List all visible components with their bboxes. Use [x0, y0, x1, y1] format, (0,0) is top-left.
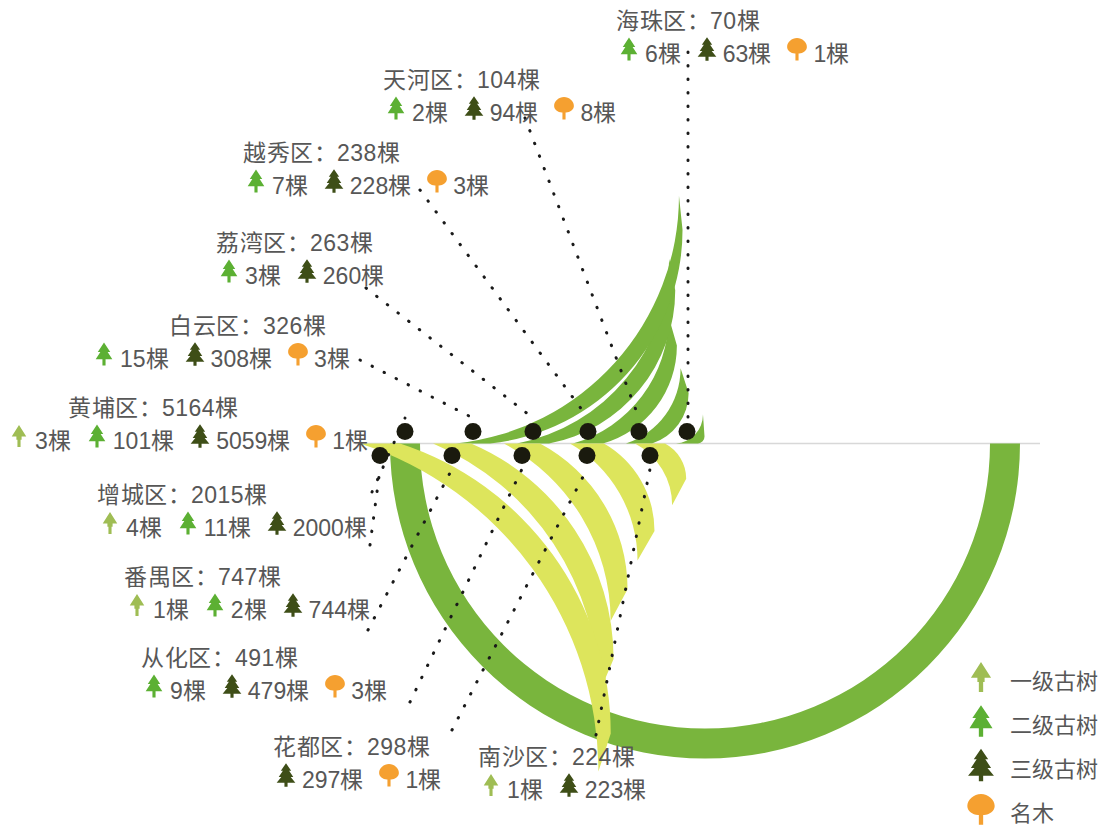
tree-level2-icon: [383, 95, 409, 130]
tree-level3-icon: [556, 772, 582, 807]
district-breakdown: 3棵260棵: [216, 258, 384, 293]
breakdown-segment: 1棵: [303, 423, 368, 458]
arc-dot-haizhu[interactable]: [679, 423, 696, 440]
tree-level2-icon: [963, 703, 999, 743]
breakdown-count: 1棵: [405, 763, 441, 797]
arc-dot-yuexiu[interactable]: [580, 423, 597, 440]
legend-label: 二级古树: [1010, 707, 1098, 739]
breakdown-count: 3棵: [35, 424, 71, 458]
label-yuexiu[interactable]: 越秀区：238棵 7棵228棵3棵: [243, 138, 489, 203]
breakdown-count: 1棵: [332, 424, 368, 458]
legend-label: 名木: [1010, 795, 1054, 827]
legend-item-4[interactable]: 名木: [963, 789, 1105, 833]
tree-level3-icon: [294, 258, 320, 293]
breakdown-count: 63棵: [723, 37, 772, 71]
famous-tree-icon: [376, 762, 402, 797]
tree-level3-icon: [187, 423, 213, 458]
breakdown-count: 15棵: [120, 342, 169, 376]
tree-level3-icon: [273, 762, 299, 797]
tree-level2-icon: [216, 258, 242, 293]
tree-level1-icon: [124, 592, 150, 627]
arc-dot-baiyun[interactable]: [465, 423, 482, 440]
district-title: 花都区：298棵: [273, 732, 441, 762]
district-title: 增城区：2015棵: [97, 480, 367, 510]
arc-dot-conghua[interactable]: [514, 447, 531, 464]
breakdown-segment: 228棵: [321, 168, 411, 203]
legend-label: 一级古树: [1010, 663, 1098, 695]
label-nansha[interactable]: 南沙区：224棵 1棵223棵: [478, 742, 646, 807]
breakdown-segment: 94棵: [461, 95, 539, 130]
breakdown-count: 3棵: [314, 342, 350, 376]
tree-level1-icon: [478, 772, 504, 807]
breakdown-segment: 5059棵: [187, 423, 290, 458]
tree-level3-icon: [321, 168, 347, 203]
breakdown-segment: 479棵: [219, 673, 309, 708]
arc-dot-huadu[interactable]: [579, 447, 596, 464]
district-title: 越秀区：238棵: [243, 138, 489, 168]
legend-item-2[interactable]: 二级古树: [963, 701, 1105, 745]
breakdown-segment: 9棵: [141, 673, 206, 708]
arc-liwan[interactable]: [517, 259, 675, 444]
famous-tree-icon: [285, 341, 311, 376]
tree-level2-icon: [202, 592, 228, 627]
arc-dot-panyu[interactable]: [444, 447, 461, 464]
tree-level2-icon: [616, 36, 642, 71]
breakdown-count: 1棵: [153, 593, 189, 627]
district-breakdown: 7棵228棵3棵: [243, 168, 489, 203]
label-conghua[interactable]: 从化区：491棵 9棵479棵3棵: [141, 643, 387, 708]
district-breakdown: 1棵223棵: [478, 772, 646, 807]
breakdown-count: 6棵: [645, 37, 681, 71]
district-breakdown: 297棵1棵: [273, 762, 441, 797]
label-baiyun[interactable]: 白云区：326棵 15棵308棵3棵: [91, 311, 350, 376]
legend-item-3[interactable]: 三级古树: [963, 745, 1105, 789]
breakdown-count: 308棵: [211, 342, 272, 376]
famous-tree-icon: [963, 791, 999, 831]
district-breakdown: 15棵308棵3棵: [91, 341, 350, 376]
tree-level1-icon: [6, 423, 32, 458]
legend-label: 三级古树: [1010, 751, 1098, 783]
label-panyu[interactable]: 番禺区：747棵 1棵2棵744棵: [124, 562, 370, 627]
famous-tree-icon: [784, 36, 810, 71]
breakdown-segment: 2000棵: [264, 510, 367, 545]
tree-level3-icon: [963, 747, 999, 787]
district-breakdown: 6棵63棵1棵: [616, 36, 849, 71]
arc-dot-huangpu[interactable]: [397, 423, 414, 440]
arc-dot-nansha[interactable]: [642, 447, 659, 464]
breakdown-count: 744棵: [309, 593, 370, 627]
breakdown-segment: 223棵: [556, 772, 646, 807]
arc-dot-zengcheng[interactable]: [372, 447, 389, 464]
label-huadu[interactable]: 花都区：298棵 297棵1棵: [273, 732, 441, 797]
breakdown-count: 1棵: [813, 37, 849, 71]
breakdown-count: 7棵: [272, 169, 308, 203]
infographic-canvas: 海珠区：70棵 6棵63棵1棵 天河区：104棵 2棵94棵8棵 越秀区：238…: [0, 0, 1109, 837]
breakdown-count: 1棵: [507, 773, 543, 807]
breakdown-count: 5059棵: [216, 424, 290, 458]
district-title: 从化区：491棵: [141, 643, 387, 673]
breakdown-count: 260棵: [323, 259, 384, 293]
label-huangpu[interactable]: 黄埔区：5164棵 3棵101棵5059棵1棵: [6, 393, 368, 458]
district-title: 南沙区：224棵: [478, 742, 646, 772]
breakdown-segment: 3棵: [424, 168, 489, 203]
breakdown-segment: 3棵: [6, 423, 71, 458]
breakdown-segment: 1棵: [784, 36, 849, 71]
arc-dot-tianhe[interactable]: [631, 423, 648, 440]
tree-level3-icon: [461, 95, 487, 130]
breakdown-count: 2棵: [412, 96, 448, 130]
legend-item-1[interactable]: 一级古树: [963, 657, 1105, 701]
breakdown-count: 228棵: [350, 169, 411, 203]
arc-dot-liwan[interactable]: [525, 423, 542, 440]
breakdown-segment: 744棵: [280, 592, 370, 627]
label-zengcheng[interactable]: 增城区：2015棵 4棵11棵2000棵: [97, 480, 367, 545]
district-breakdown: 1棵2棵744棵: [124, 592, 370, 627]
label-liwan[interactable]: 荔湾区：263棵 3棵260棵: [216, 228, 384, 293]
label-tianhe[interactable]: 天河区：104棵 2棵94棵8棵: [383, 65, 616, 130]
label-haizhu[interactable]: 海珠区：70棵 6棵63棵1棵: [616, 6, 849, 71]
breakdown-count: 479棵: [248, 674, 309, 708]
breakdown-segment: 1棵: [124, 592, 189, 627]
breakdown-count: 101棵: [113, 424, 174, 458]
legend: 一级古树二级古树三级古树名木: [963, 657, 1105, 833]
breakdown-segment: 3棵: [285, 341, 350, 376]
tree-level3-icon: [694, 36, 720, 71]
breakdown-segment: 308棵: [182, 341, 272, 376]
breakdown-count: 94棵: [490, 96, 539, 130]
